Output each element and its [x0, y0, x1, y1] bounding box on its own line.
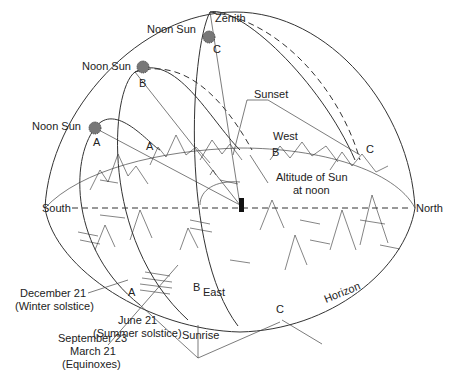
june-label-line2: (Summer solstice) [93, 327, 182, 339]
celestial-dome [45, 12, 415, 208]
sun-a-point: A [93, 136, 101, 148]
noon-sun-a-label: Noon Sun [32, 120, 81, 132]
sun-path-b [118, 68, 240, 320]
rise-c-point: C [276, 303, 284, 315]
noon-sun-b-label: Noon Sun [82, 60, 131, 72]
south-label: South [42, 202, 71, 214]
december-label-line1: December 21 [20, 287, 86, 299]
sunset-label: Sunset [254, 88, 288, 100]
east-label: East [203, 286, 225, 298]
equinox-label-line3: (Equinoxes) [62, 358, 121, 370]
noon-sun-c-label: Noon Sun [147, 23, 196, 35]
rise-b-point: B [193, 281, 200, 293]
december-label-line2: (Winter solstice) [15, 300, 94, 312]
observer-figure [239, 198, 244, 212]
horizon-label: Horizon [322, 280, 362, 305]
sun-path-b-dashed [135, 69, 252, 150]
sunrise-label: Sunrise [182, 329, 219, 341]
sun-b-icon [137, 61, 149, 73]
set-c-point: C [366, 143, 374, 155]
sun-c-icon [203, 31, 215, 43]
altitude-label-line2: at noon [293, 184, 330, 196]
equinox-label-line2: March 21 [70, 345, 116, 357]
sun-c-point: C [213, 43, 221, 55]
sun-b-point: B [139, 77, 146, 89]
altitude-label-line1: Altitude of Sun [276, 171, 348, 183]
set-a-point: A [146, 140, 154, 152]
zenith-label: Zenith [215, 12, 246, 24]
north-label: North [416, 202, 443, 214]
rise-a-point: A [128, 286, 136, 298]
sun-a-icon [89, 122, 101, 134]
west-label: West [273, 130, 298, 142]
altitude-arrows [200, 170, 240, 205]
sun-path-diagram: Zenith Noon Sun Noon Sun Noon Sun C B A … [0, 0, 452, 378]
june-label-line1: June 21 [118, 314, 157, 326]
set-b-point: B [272, 146, 279, 158]
